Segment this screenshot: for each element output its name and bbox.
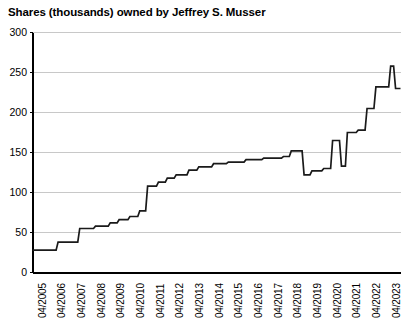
gridlines bbox=[33, 33, 401, 273]
x-tick-label: 04/2007 bbox=[76, 283, 87, 318]
x-tick-label: 04/2006 bbox=[56, 283, 67, 318]
chart-plot-area bbox=[0, 0, 418, 321]
x-tick-label: 04/2023 bbox=[391, 283, 402, 318]
x-tick-label: 04/2015 bbox=[233, 283, 244, 318]
x-tick-label: 04/2018 bbox=[292, 283, 303, 318]
x-tick-label: 04/2005 bbox=[37, 283, 48, 318]
x-tick-label: 04/2016 bbox=[253, 283, 264, 318]
y-tick-label: 200 bbox=[1, 106, 27, 118]
y-tick-label: 50 bbox=[1, 226, 27, 238]
x-tick-label: 04/2020 bbox=[332, 283, 343, 318]
x-tick-label: 04/2017 bbox=[273, 283, 284, 318]
x-tick-label: 04/2010 bbox=[135, 283, 146, 318]
x-tick-label: 04/2009 bbox=[115, 283, 126, 318]
x-tick-label: 04/2021 bbox=[351, 283, 362, 318]
y-tick-label: 0 bbox=[1, 266, 27, 278]
y-tick-label: 250 bbox=[1, 66, 27, 78]
y-tick-label: 150 bbox=[1, 146, 27, 158]
y-tick-label: 300 bbox=[1, 26, 27, 38]
x-tick-label: 04/2019 bbox=[312, 283, 323, 318]
data-series-line bbox=[33, 66, 401, 250]
x-tick-label: 04/2014 bbox=[214, 283, 225, 318]
x-tick-label: 04/2013 bbox=[194, 283, 205, 318]
x-tick-label: 04/2012 bbox=[174, 283, 185, 318]
x-tick-label: 04/2011 bbox=[155, 283, 166, 317]
x-tick-label: 04/2008 bbox=[96, 283, 107, 318]
x-tick-label: 04/2022 bbox=[371, 283, 382, 318]
y-tick-label: 100 bbox=[1, 186, 27, 198]
chart-container: Shares (thousands) owned by Jeffrey S. M… bbox=[0, 0, 418, 321]
